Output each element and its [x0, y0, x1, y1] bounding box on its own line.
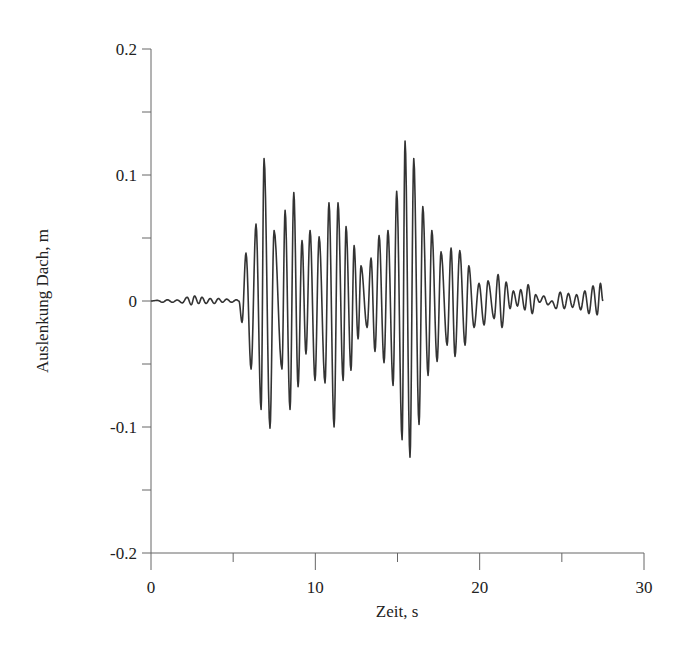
- chart-canvas: 0.20.10-0.1-0.2 0102030 Zeit, s Auslenku…: [0, 0, 686, 663]
- y-axis-label: Auslenkung Dach, m: [33, 229, 52, 373]
- displacement-line: [151, 141, 603, 457]
- x-tick-label: 0: [147, 578, 156, 597]
- y-ticks: 0.20.10-0.1-0.2: [110, 40, 151, 563]
- y-tick-label: -0.2: [110, 544, 137, 563]
- y-tick-label: -0.1: [110, 418, 137, 437]
- x-axis-label: Zeit, s: [376, 602, 419, 621]
- x-ticks: 0102030: [147, 553, 653, 597]
- y-tick-label: 0.2: [116, 40, 137, 59]
- x-tick-label: 20: [471, 578, 488, 597]
- y-tick-label: 0: [129, 292, 138, 311]
- x-tick-label: 10: [307, 578, 324, 597]
- x-tick-label: 30: [636, 578, 653, 597]
- y-tick-label: 0.1: [116, 166, 137, 185]
